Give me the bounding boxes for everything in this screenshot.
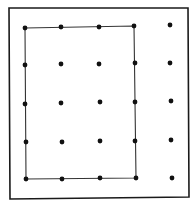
grid-dot-r1-c3 [97,25,102,30]
grid-dot-r1-c2 [59,25,64,30]
grid-dot-r2-c2 [59,62,64,67]
grid-dot-r2-c5 [168,61,173,66]
grid-dot-r2-c1 [23,63,28,68]
grid-dot-r5-c2 [60,177,65,182]
grid-dot-r4-c3 [98,139,103,144]
grid-dot-r5-c4 [134,176,139,181]
grid-dot-r2-c4 [133,61,138,66]
grid-dot-r4-c4 [133,139,138,144]
dot-grid [23,23,175,182]
grid-dot-r3-c2 [59,101,64,106]
grid-dot-r3-c1 [23,102,28,107]
grid-dot-r5-c3 [98,176,103,181]
grid-dot-r1-c5 [168,23,173,28]
grid-dot-r4-c2 [60,140,65,145]
grid-dot-r3-c3 [98,100,103,105]
grid-dot-r1-c1 [23,26,28,31]
grid-dot-r5-c1 [24,177,29,182]
grid-dot-r3-c5 [169,99,174,104]
grid-dot-r3-c4 [133,100,138,105]
grid-dot-r1-c4 [132,24,137,29]
grid-dot-r5-c5 [170,176,175,181]
grid-dot-r4-c5 [169,138,174,143]
grid-dot-r4-c1 [24,140,29,145]
grid-dot-r2-c3 [97,62,102,67]
rectangle-shape [25,26,136,179]
geoboard-diagram [0,0,194,207]
